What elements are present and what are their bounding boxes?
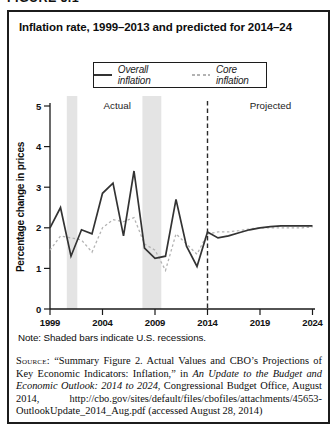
source-label: Source:	[16, 355, 50, 366]
overall-inflation-line	[50, 171, 313, 266]
y-tick-label: 0	[36, 304, 41, 315]
y-tick-label: 1	[36, 263, 42, 274]
legend-label: Overall inflation	[118, 64, 176, 86]
chart-legend: Overall inflation Core inflation	[93, 62, 267, 88]
legend-item-overall-inflation: Overall inflation	[94, 64, 176, 86]
note-text: Note: Shaded bars indicate U.S. recessio…	[18, 332, 206, 343]
y-tick-label: 3	[36, 182, 41, 193]
x-tick-label: 2024	[302, 317, 323, 328]
x-tick-label: 2019	[250, 317, 270, 328]
x-tick-label: 2009	[145, 317, 165, 328]
recession-band	[67, 96, 78, 309]
actual-region-label: Actual	[104, 100, 131, 111]
source-citation: Source: “Summary Figure 2. Actual Values…	[16, 355, 322, 418]
recession-band	[142, 96, 161, 309]
legend-label: Core inflation	[216, 64, 266, 86]
x-tick-label: 2014	[197, 317, 218, 328]
solid-line-swatch-icon	[94, 74, 112, 76]
legend-item-core-inflation: Core inflation	[192, 64, 266, 86]
x-tick-label: 2004	[92, 317, 113, 328]
y-tick-label: 5	[36, 101, 42, 112]
y-tick-label: 2	[36, 222, 41, 233]
x-tick-label: 1999	[40, 317, 60, 328]
inflation-line-chart: 012345199920042009201420192024ActualProj…	[0, 88, 336, 338]
y-tick-label: 4	[36, 141, 42, 152]
figure-page: FIGURE 5.1 Inflation rate, 1999–2013 and…	[0, 0, 336, 429]
figure-number-label: FIGURE 5.1	[7, 0, 79, 5]
projected-region-label: Projected	[250, 100, 291, 111]
chart-title: Inflation rate, 1999–2013 and predicted …	[19, 21, 292, 33]
dotted-line-swatch-icon	[192, 74, 210, 76]
